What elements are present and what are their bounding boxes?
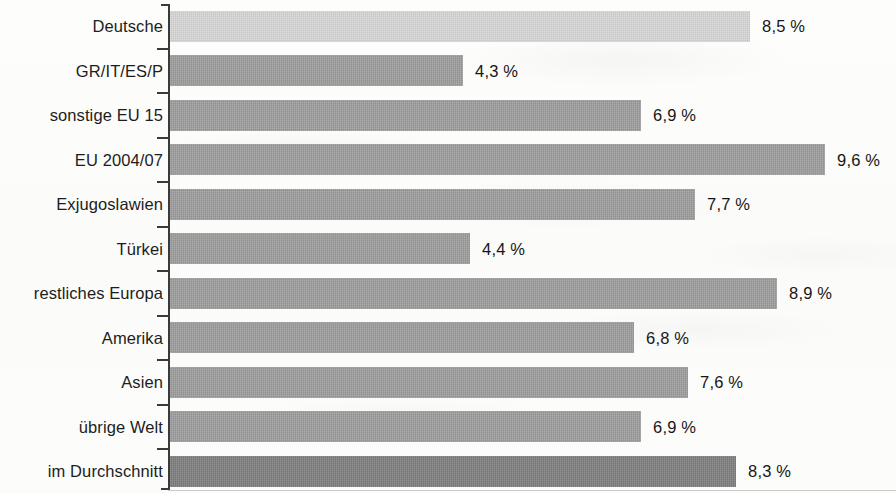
axis-tick bbox=[157, 181, 169, 183]
category-label: Türkei bbox=[117, 227, 163, 272]
bar bbox=[170, 189, 695, 220]
axis-tick bbox=[157, 404, 169, 406]
bar bbox=[170, 367, 688, 398]
category-label: übrige Welt bbox=[79, 405, 163, 450]
bar bbox=[170, 55, 463, 86]
baseline-rule bbox=[168, 490, 896, 491]
category-label: EU 2004/07 bbox=[75, 138, 163, 183]
bar bbox=[170, 100, 641, 131]
value-label: 7,7 % bbox=[707, 182, 750, 227]
value-label: 9,6 % bbox=[837, 138, 880, 183]
category-label: GR/IT/ES/P bbox=[76, 49, 163, 94]
value-label: 4,3 % bbox=[475, 49, 518, 94]
value-label: 8,9 % bbox=[789, 271, 832, 316]
bar-row: Amerika6,8 % bbox=[0, 316, 896, 361]
bar bbox=[170, 456, 736, 487]
axis-tick bbox=[157, 48, 169, 50]
bar-row: Exjugoslawien7,7 % bbox=[0, 182, 896, 227]
bar bbox=[170, 233, 470, 264]
axis-tick bbox=[157, 226, 169, 228]
bar bbox=[170, 11, 750, 42]
axis-tick bbox=[157, 448, 169, 450]
axis-tick bbox=[157, 137, 169, 139]
value-label: 8,3 % bbox=[748, 449, 791, 493]
axis-tick bbox=[157, 270, 169, 272]
axis-tick bbox=[157, 315, 169, 317]
bar-row: Deutsche8,5 % bbox=[0, 4, 896, 49]
bar-row: EU 2004/079,6 % bbox=[0, 138, 896, 183]
value-label: 7,6 % bbox=[700, 360, 743, 405]
bar-row: sonstige EU 156,9 % bbox=[0, 93, 896, 138]
category-label: Deutsche bbox=[92, 4, 163, 49]
category-label: sonstige EU 15 bbox=[50, 93, 163, 138]
bar-row: Türkei4,4 % bbox=[0, 227, 896, 272]
bar bbox=[170, 144, 825, 175]
bar-row: GR/IT/ES/P4,3 % bbox=[0, 49, 896, 94]
value-label: 6,8 % bbox=[646, 316, 689, 361]
plot-area: Deutsche8,5 %GR/IT/ES/P4,3 %sonstige EU … bbox=[0, 0, 896, 493]
bar bbox=[170, 411, 641, 442]
value-label: 8,5 % bbox=[762, 4, 805, 49]
bar-row: Asien7,6 % bbox=[0, 360, 896, 405]
value-label: 4,4 % bbox=[482, 227, 525, 272]
bar-chart: Deutsche8,5 %GR/IT/ES/P4,3 %sonstige EU … bbox=[0, 0, 896, 493]
value-label: 6,9 % bbox=[653, 405, 696, 450]
bar bbox=[170, 322, 634, 353]
bar-row: übrige Welt6,9 % bbox=[0, 405, 896, 450]
category-label: Amerika bbox=[102, 316, 163, 361]
bar-row: im Durchschnitt8,3 % bbox=[0, 449, 896, 493]
value-label: 6,9 % bbox=[653, 93, 696, 138]
category-label: Exjugoslawien bbox=[56, 182, 163, 227]
category-label: restliches Europa bbox=[34, 271, 163, 316]
axis-tick bbox=[157, 359, 169, 361]
axis-tick bbox=[157, 92, 169, 94]
bar-row: restliches Europa8,9 % bbox=[0, 271, 896, 316]
bar bbox=[170, 278, 777, 309]
category-label: Asien bbox=[121, 360, 163, 405]
category-label: im Durchschnitt bbox=[48, 449, 163, 493]
